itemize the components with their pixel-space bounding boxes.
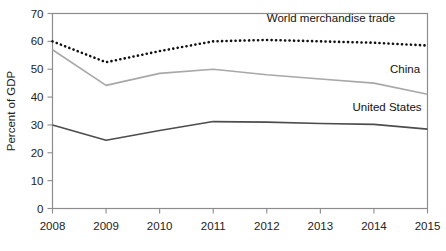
y-tick-label: 10 xyxy=(31,175,44,187)
y-tick-label: 40 xyxy=(31,91,44,103)
x-tick-label: 2008 xyxy=(40,220,66,232)
y-axis-title: Percent of GDP xyxy=(5,70,17,151)
x-tick-label: 2010 xyxy=(147,220,173,232)
x-tick-label: 2011 xyxy=(201,220,226,232)
series-label-world-merchandise-trade: World merchandise trade xyxy=(267,12,395,24)
y-tick-label: 60 xyxy=(31,35,44,47)
y-axis-title-text: Percent of GDP xyxy=(5,70,17,151)
y-tick-label: 50 xyxy=(31,63,44,75)
x-tick-label: 2013 xyxy=(308,220,334,232)
x-tick-label: 2012 xyxy=(254,220,280,232)
y-tick-label: 30 xyxy=(31,119,44,131)
y-tick-label: 20 xyxy=(31,147,44,159)
x-tick-label: 2015 xyxy=(415,220,441,232)
y-tick-label: 0 xyxy=(37,203,43,215)
x-tick-label: 2014 xyxy=(361,220,387,232)
series-label-united-states: United States xyxy=(353,101,422,113)
y-tick-label: 70 xyxy=(31,8,44,20)
series-label-china: China xyxy=(390,63,421,75)
x-tick-label: 2009 xyxy=(93,220,119,232)
gdp-trade-line-chart: 010203040506070 200820092010201120122013… xyxy=(0,0,446,251)
chart-container: 010203040506070 200820092010201120122013… xyxy=(0,0,446,251)
